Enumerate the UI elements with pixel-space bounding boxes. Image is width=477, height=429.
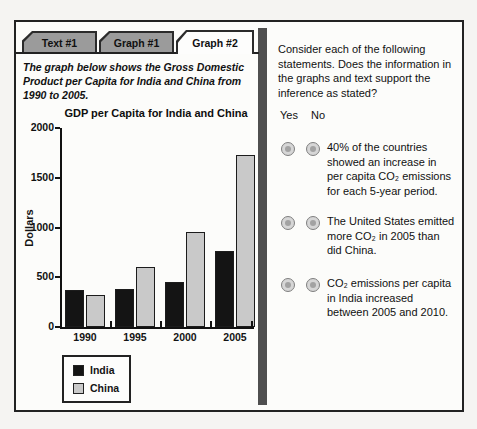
legend-label: India [90,364,115,376]
statement-2-yes-radio[interactable] [281,216,295,230]
x-axis-tick [210,321,212,327]
statement-2-text: The United States emitted more CO₂ in 20… [327,214,455,258]
x-axis-tick [110,321,112,327]
bar-india-1990 [65,290,84,327]
bar-india-2005 [215,251,234,327]
question-prompt: Consider each of the following statement… [278,42,458,100]
y-axis-tick [55,276,60,278]
bar-china-2000 [186,232,205,327]
tab-text-1[interactable]: Text #1 [22,31,97,52]
statement-1-text: 40% of the countries showed an increase … [327,140,455,198]
legend-swatch-china [73,383,84,394]
tab-text-1-label: Text #1 [42,37,77,49]
graph-caption: The graph below shows the Gross Domestic… [23,60,257,102]
legend-item: China [73,382,119,394]
yes-column-header: Yes [280,109,298,121]
y-tick-label: 0 [20,320,54,332]
x-axis-tick [160,321,162,327]
chart-plot: 05001000150020001990199520002005 [60,128,254,329]
tab-graph-1-label: Graph #1 [114,37,160,49]
statement-3-no-radio[interactable] [306,278,320,292]
screen: Text #1 Graph #1 Graph #2 The graph belo… [0,0,477,429]
y-tick-label: 2000 [20,121,54,133]
legend-item: India [73,364,119,376]
x-tick-label: 1995 [110,331,160,343]
bar-india-2000 [165,282,184,327]
chart-title: GDP per Capita for India and China [40,107,272,119]
legend-label: China [90,382,119,394]
x-tick-label: 2000 [160,331,210,343]
y-axis-tick [55,326,60,328]
bar-china-2005 [236,155,255,327]
question-panel: Consider each of the following statement… [278,22,460,410]
x-tick-label: 2005 [210,331,260,343]
bar-china-1995 [136,267,155,327]
activity-frame: Text #1 Graph #1 Graph #2 The graph belo… [14,20,464,412]
y-axis-tick [55,127,60,129]
tab-graph-1[interactable]: Graph #1 [99,31,174,52]
panel-divider [258,28,267,405]
x-tick-label: 1990 [60,331,110,343]
legend-swatch-india [73,365,84,376]
y-tick-label: 1000 [20,221,54,233]
statement-1-no-radio[interactable] [306,142,320,156]
x-axis-tick [251,321,253,327]
no-column-header: No [311,109,325,121]
statement-1-yes-radio[interactable] [281,142,295,156]
bar-china-1990 [86,295,105,327]
y-tick-label: 1500 [20,171,54,183]
statement-3-yes-radio[interactable] [281,278,295,292]
y-axis-tick [55,227,60,229]
y-tick-label: 500 [20,270,54,282]
statement-2-no-radio[interactable] [306,216,320,230]
statement-3-text: CO₂ emissions per capita in India increa… [327,276,455,320]
tab-graph-2-active[interactable]: Graph #2 [176,30,254,54]
bar-india-1995 [115,289,134,327]
y-axis-tick [55,177,60,179]
chart-legend: IndiaChina [62,355,131,403]
tab-graph-2-label: Graph #2 [192,37,238,49]
